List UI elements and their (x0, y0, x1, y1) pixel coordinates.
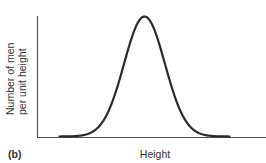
bell-curve-chart: Number of men per unit height Height (b) (0, 0, 266, 163)
panel-label: (b) (8, 148, 21, 160)
y-axis-label-line-2: per unit height (16, 48, 28, 115)
distribution-curve (59, 17, 231, 137)
x-axis-label: Height (140, 148, 170, 160)
y-axis-label-line-1: Number of men (4, 42, 16, 115)
